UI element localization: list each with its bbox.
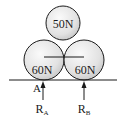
arrow-up-icon — [41, 81, 46, 88]
point-a-label: A — [33, 82, 41, 94]
sphere-right: 60N — [64, 40, 104, 80]
arrow-up-icon — [82, 81, 87, 88]
sphere-top: 50N — [46, 6, 80, 40]
sphere-left: 60N — [24, 40, 64, 80]
force-diagram: 50N 60N 60N A RA RB — [0, 0, 126, 124]
sphere-right-weight-label: 60N — [75, 63, 96, 77]
reaction-ra-arrow — [41, 81, 46, 100]
sphere-top-weight-label: 50N — [53, 17, 74, 31]
reaction-rb-arrow — [82, 81, 87, 100]
reaction-ra-label: RA — [35, 102, 48, 117]
reaction-rb-label: RB — [78, 102, 91, 117]
diagram-canvas: 50N 60N 60N A RA RB — [0, 0, 126, 124]
sphere-left-weight-label: 60N — [32, 63, 53, 77]
